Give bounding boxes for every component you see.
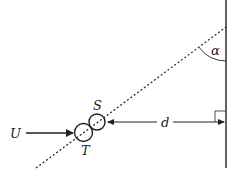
diagram-canvas: α d S T U	[0, 0, 241, 178]
right-angle-marker	[215, 111, 226, 122]
source-label: S	[93, 98, 102, 113]
angle-label: α	[211, 43, 220, 58]
flow-label: U	[10, 126, 22, 141]
distance-label: d	[161, 115, 169, 130]
trajectory-dotted-line	[36, 27, 226, 168]
target-label: T	[81, 143, 91, 158]
